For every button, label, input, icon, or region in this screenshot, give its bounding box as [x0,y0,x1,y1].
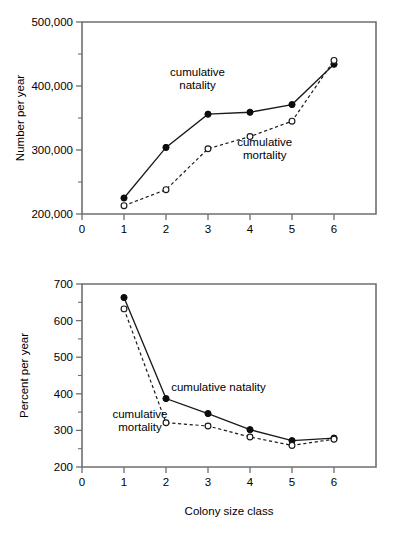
data-point-mortality [289,443,295,449]
y-tick-label: 600 [54,315,73,327]
x-tick-label: 1 [121,476,127,488]
x-tick-label: 4 [247,223,254,235]
data-point-natality [163,144,169,150]
series-line-mortality [124,60,334,205]
x-axis-ticks: 0123456 [79,467,337,488]
data-point-natality [247,109,253,115]
series-annotation: cumulativemortality [237,136,292,161]
data-point-natality [205,111,211,117]
chart-top: 200,000300,000400,000500,0000123456cumul… [0,0,401,269]
x-tick-label: 1 [121,223,127,235]
y-tick-label: 300,000 [31,144,73,156]
data-point-mortality [163,187,169,193]
data-point-mortality [163,420,169,426]
series-line-natality [124,64,334,198]
series-annotation: cumulativemortality [112,408,167,433]
plot-frame [82,22,376,214]
x-tick-label: 0 [79,223,85,235]
y-axis-title: Number per year [14,75,26,161]
y-tick-label: 200 [54,461,73,473]
data-point-natality [121,294,127,300]
data-point-mortality [205,423,211,429]
series-annotation: cumulativenatality [170,66,225,91]
x-tick-label: 0 [79,476,85,488]
data-point-natality [289,101,295,107]
data-point-mortality [331,58,337,64]
figure-container: 200,000300,000400,000500,0000123456cumul… [0,0,401,538]
data-point-natality [205,410,211,416]
y-tick-label: 500 [54,351,73,363]
data-point-mortality [205,146,211,152]
y-tick-label: 300 [54,424,73,436]
data-point-mortality [247,434,253,440]
y-tick-label: 700 [54,278,73,290]
x-tick-label: 5 [289,223,295,235]
data-point-natality [121,195,127,201]
data-point-mortality [121,306,127,312]
y-tick-label: 400 [54,388,73,400]
chart-bottom: 2003004005006007000123456cumulative nata… [0,260,401,538]
x-axis-title: Colony size class [185,505,274,517]
y-tick-label: 500,000 [31,16,73,28]
x-tick-label: 6 [331,476,337,488]
x-tick-label: 2 [163,476,169,488]
series-annotation: cumulative natality [171,381,266,393]
x-tick-label: 2 [163,223,169,235]
x-tick-label: 5 [289,476,295,488]
data-point-mortality [289,118,295,124]
y-axis-title: Percent per year [18,333,30,418]
x-axis-ticks: 0123456 [79,214,337,235]
y-tick-label: 200,000 [31,208,73,220]
chart-panel-number-per-year: 200,000300,000400,000500,0000123456cumul… [0,0,401,269]
x-tick-label: 6 [331,223,337,235]
data-point-natality [247,427,253,433]
x-tick-label: 3 [205,223,211,235]
x-tick-label: 4 [247,476,254,488]
data-point-mortality [331,436,337,442]
y-axis-ticks: 200300400500600700 [54,278,82,473]
x-tick-label: 3 [205,476,211,488]
data-point-natality [163,395,169,401]
y-axis-ticks: 200,000300,000400,000500,000 [31,16,82,220]
y-tick-label: 400,000 [31,80,73,92]
data-point-mortality [121,203,127,209]
chart-panel-percent-per-year: 2003004005006007000123456cumulative nata… [0,260,401,538]
